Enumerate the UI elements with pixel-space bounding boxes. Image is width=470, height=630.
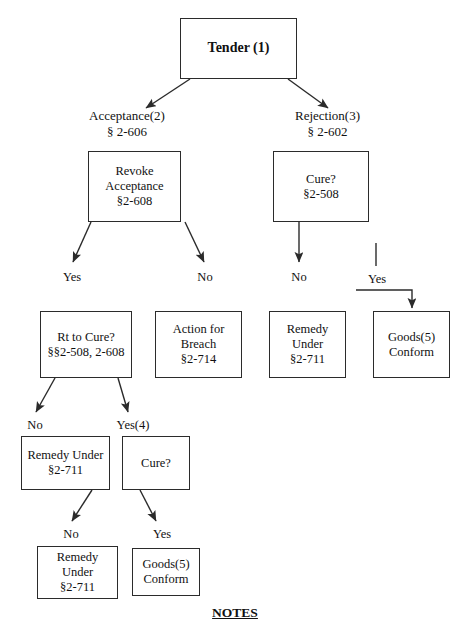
node-rt-to-cure-line-1: §§2-508, 2-608: [47, 345, 124, 360]
edge-label-cure-low-yes: Yes: [139, 527, 185, 542]
node-goods-conform-right[interactable]: Goods(5) Conform: [373, 311, 450, 378]
node-remedy-under-right[interactable]: Remedy Under §2-711: [269, 311, 346, 378]
edge-label-rt-cure-no: No: [12, 418, 58, 433]
node-cure-right-line-1: §2-508: [303, 187, 338, 202]
node-remedy-mid-line-0: Remedy Under: [27, 448, 103, 463]
edge-label-cure-low-no-text: No: [48, 527, 94, 542]
node-remedy-bottom-line-0: Remedy: [57, 550, 99, 565]
flowchart-diagram: Tender (1) Acceptance(2) § 2-606 Rejecti…: [0, 0, 470, 630]
node-cure-right-line-0: Cure?: [306, 172, 336, 187]
edge-label-cure-right-yes: Yes: [355, 272, 399, 287]
node-remedy-right-line-0: Remedy: [287, 322, 329, 337]
branch-label-acceptance-line-1: § 2-606: [62, 124, 192, 140]
edge-tender-to-acceptance: [146, 79, 190, 108]
node-action-breach-line-2: §2-714: [181, 352, 216, 367]
node-revoke-line-1: Acceptance: [105, 179, 163, 194]
node-cure-right[interactable]: Cure? §2-508: [273, 151, 369, 222]
node-tender[interactable]: Tender (1): [180, 18, 297, 79]
node-revoke-line-2: §2-608: [117, 194, 152, 209]
node-revoke-line-0: Revoke: [115, 164, 153, 179]
node-goods-conform-bottom[interactable]: Goods(5) Conform: [132, 548, 200, 596]
node-action-breach-line-1: Breach: [181, 337, 216, 352]
edge-rt-cure-to-yes: [118, 378, 128, 412]
node-rt-to-cure-line-0: Rt to Cure?: [57, 330, 115, 345]
edge-label-rt-cure-no-text: No: [12, 418, 58, 433]
branch-label-rejection-line-1: § 2-602: [265, 124, 390, 140]
edge-label-rt-cure-yes: Yes(4): [106, 418, 160, 433]
notes-heading: NOTES: [185, 605, 285, 621]
node-goods-conform-right-line-0: Goods(5): [388, 330, 435, 345]
edge-revoke-to-yes: [73, 222, 91, 262]
edge-cure-low-to-yes: [140, 490, 156, 521]
node-goods-conform-bottom-line-0: Goods(5): [142, 557, 189, 572]
edge-label-cure-low-yes-text: Yes: [139, 527, 185, 542]
branch-label-rejection-line-0: Rejection(3): [265, 108, 390, 124]
node-goods-conform-right-line-1: Conform: [389, 345, 434, 360]
node-remedy-under-mid[interactable]: Remedy Under §2-711: [21, 436, 110, 490]
edge-label-cure-right-no: No: [274, 270, 324, 285]
edge-cure-right-yes-elbow: [356, 290, 412, 308]
edge-label-revoke-yes: Yes: [44, 270, 100, 285]
edge-label-revoke-no-text: No: [180, 270, 230, 285]
node-remedy-under-bottom[interactable]: Remedy Under §2-711: [37, 546, 118, 599]
edge-revoke-to-no: [185, 222, 204, 262]
node-goods-conform-bottom-line-1: Conform: [143, 572, 188, 587]
node-remedy-bottom-line-2: §2-711: [60, 580, 95, 595]
node-cure-low[interactable]: Cure?: [122, 436, 190, 490]
node-remedy-bottom-line-1: Under: [62, 565, 93, 580]
node-tender-line-0: Tender (1): [208, 40, 270, 57]
edge-label-revoke-no: No: [180, 270, 230, 285]
node-action-breach-line-0: Action for: [173, 322, 225, 337]
node-remedy-mid-line-1: §2-711: [48, 463, 83, 478]
node-action-for-breach[interactable]: Action for Breach §2-714: [155, 311, 242, 378]
node-revoke-acceptance[interactable]: Revoke Acceptance §2-608: [88, 151, 181, 222]
branch-label-acceptance-line-0: Acceptance(2): [62, 108, 192, 124]
edge-label-cure-right-no-text: No: [274, 270, 324, 285]
branch-label-rejection: Rejection(3) § 2-602: [265, 108, 390, 139]
branch-label-acceptance: Acceptance(2) § 2-606: [62, 108, 192, 139]
edge-remedy-mid-to-no: [72, 490, 92, 521]
edge-label-revoke-yes-text: Yes: [44, 270, 100, 285]
edge-rt-cure-to-no: [36, 378, 55, 412]
edge-label-cure-low-no: No: [48, 527, 94, 542]
node-remedy-right-line-2: §2-711: [290, 352, 325, 367]
edge-label-rt-cure-yes-text: Yes(4): [106, 418, 160, 433]
node-rt-to-cure[interactable]: Rt to Cure? §§2-508, 2-608: [40, 311, 132, 378]
node-remedy-right-line-1: Under: [292, 337, 323, 352]
edge-label-cure-right-yes-text: Yes: [355, 272, 399, 287]
edge-tender-to-rejection: [288, 79, 328, 108]
node-cure-low-line-0: Cure?: [141, 456, 171, 471]
